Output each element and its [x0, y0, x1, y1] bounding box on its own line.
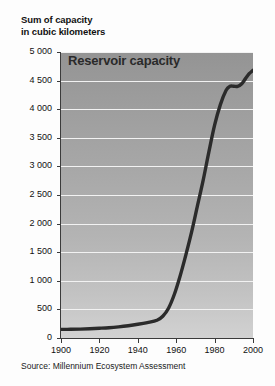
y-axis-title-line-2: in cubic kilometers: [21, 26, 105, 38]
x-tick-mark: [215, 339, 216, 343]
y-tick-label: 500: [6, 304, 52, 313]
y-axis-title: Sum of capacity in cubic kilometers: [21, 14, 105, 37]
y-tick-mark: [57, 224, 61, 225]
y-tick-mark: [57, 109, 61, 110]
x-tick-label: 1960: [156, 345, 196, 355]
chart-figure: Sum of capacity in cubic kilometers Rese…: [0, 0, 275, 386]
x-tick-mark: [99, 339, 100, 343]
x-tick-label: 1900: [41, 345, 81, 355]
y-tick-label: 2 500: [6, 190, 52, 199]
y-tick-label: 4 500: [6, 76, 52, 85]
y-tick-mark: [57, 309, 61, 310]
x-tick-mark: [176, 339, 177, 343]
plot-area: Reservoir capacity: [61, 52, 253, 338]
x-tick-label: 1980: [195, 345, 235, 355]
line-path: [61, 70, 253, 329]
y-tick-label: 0: [6, 333, 52, 342]
y-tick-mark: [57, 81, 61, 82]
x-tick-label: 1940: [118, 345, 158, 355]
x-tick-mark: [253, 339, 254, 343]
y-tick-label: 1 500: [6, 247, 52, 256]
y-axis-title-line-1: Sum of capacity: [21, 14, 105, 26]
x-tick-label: 1920: [79, 345, 119, 355]
y-tick-label: 4 000: [6, 104, 52, 113]
x-tick-mark: [61, 339, 62, 343]
source-note: Source: Millennium Ecosystem Assessment: [21, 361, 185, 371]
y-tick-label: 2 000: [6, 219, 52, 228]
y-tick-mark: [57, 195, 61, 196]
y-tick-mark: [57, 281, 61, 282]
x-tick-label: 2000: [233, 345, 273, 355]
y-tick-mark: [57, 52, 61, 53]
x-tick-mark: [138, 339, 139, 343]
y-tick-label: 3 000: [6, 161, 52, 170]
y-tick-mark: [57, 252, 61, 253]
y-tick-label: 5 000: [6, 47, 52, 56]
y-tick-mark: [57, 166, 61, 167]
x-axis-line: [60, 338, 254, 339]
y-tick-mark: [57, 138, 61, 139]
y-tick-label: 1 000: [6, 276, 52, 285]
y-tick-label: 3 500: [6, 133, 52, 142]
data-series-reservoir-capacity: [61, 52, 253, 338]
